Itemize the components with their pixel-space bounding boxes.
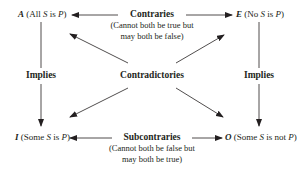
implies-left-title: Implies — [24, 70, 58, 81]
contraries-title: Contraries — [110, 9, 193, 20]
contraries-note-line2: may both be false) — [110, 31, 193, 42]
contradictories-arrow-o — [176, 88, 223, 117]
proposition-i: I (Some S is P) — [15, 132, 70, 143]
subcontraries-title: Subcontraries — [109, 132, 195, 143]
subcontraries-note-line1: (Cannot both be false but — [109, 143, 195, 154]
proposition-o: O (Some S is not P) — [225, 132, 297, 143]
contradictories-arrow-i — [70, 88, 128, 117]
contraries-label-group: Contraries (Cannot both be true but may … — [110, 9, 193, 42]
implies-right-title: Implies — [242, 70, 276, 81]
proposition-a: A (All S is P) — [18, 9, 67, 20]
contraries-note-line1: (Cannot both be true but — [110, 20, 193, 31]
proposition-e: E (No S is P) — [236, 9, 284, 20]
subcontraries-note-line2: may both be true) — [109, 154, 195, 165]
subcontraries-label-group: Subcontraries (Cannot both be false but … — [109, 132, 195, 165]
contradictories-title: Contradictories — [120, 70, 184, 81]
